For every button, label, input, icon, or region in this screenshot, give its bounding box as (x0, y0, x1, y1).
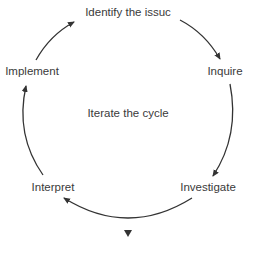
arrow-identify-to-inquire (180, 20, 220, 59)
arrow-investigate-to-interpret (64, 198, 192, 218)
center-label: Iterate the cycle (87, 106, 168, 120)
arrow-interpret-to-implement (23, 86, 43, 175)
node-identify-the-issue: Identify the issuc (85, 5, 171, 19)
node-interpret: Interpret (32, 180, 75, 194)
node-inquire: Inquire (207, 64, 242, 78)
triangle-down-icon (124, 230, 132, 237)
node-implement: Implement (5, 64, 59, 78)
arrow-inquire-to-investigate (213, 84, 233, 176)
cycle-arrows (0, 0, 255, 259)
node-investigate: Investigate (180, 180, 236, 194)
arrow-implement-to-identify (36, 22, 74, 60)
